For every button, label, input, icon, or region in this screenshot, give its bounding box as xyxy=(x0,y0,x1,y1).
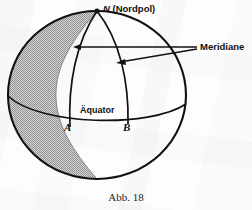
north-pole-label: N (Nordpol) xyxy=(103,4,155,14)
north-pole-symbol: N xyxy=(103,3,110,14)
point-a-label: A xyxy=(64,122,71,133)
figure-caption: Abb. 18 xyxy=(0,191,252,203)
meridians-label: Meridiane xyxy=(200,42,244,52)
north-pole-dot xyxy=(94,8,99,13)
globe-diagram xyxy=(0,0,252,210)
meridian-leader-arrow-2 xyxy=(116,49,197,65)
point-b-label: B xyxy=(123,122,130,133)
meridian-leader-arrow-1 xyxy=(73,44,197,50)
north-pole-name: (Nordpol) xyxy=(110,3,155,14)
figure-container: N (Nordpol) Meridiane Äquator A B Abb. 1… xyxy=(0,0,252,210)
equator-label: Äquator xyxy=(80,106,115,115)
